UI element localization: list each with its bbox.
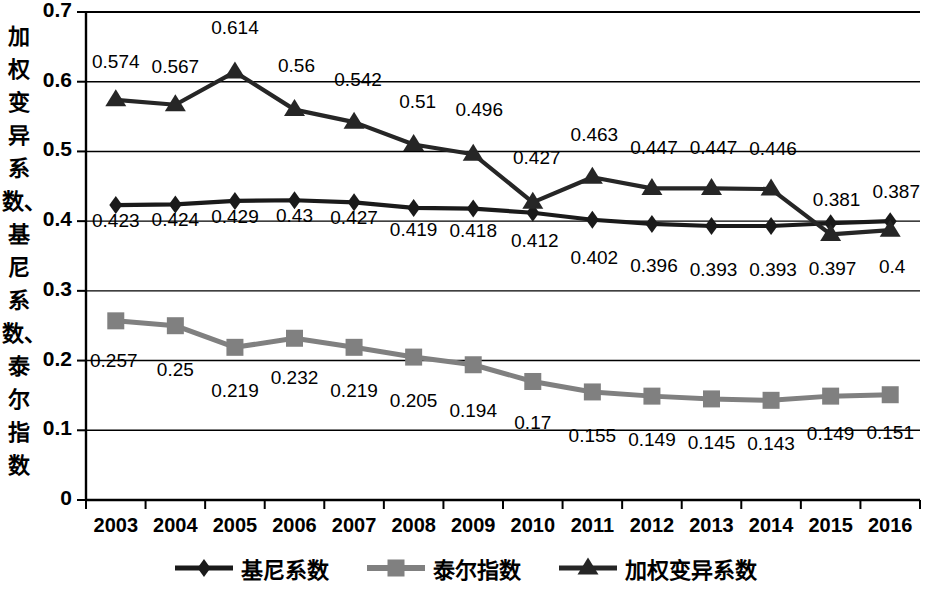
x-tick-label: 2016 [860,514,920,537]
x-tick-label: 2005 [205,514,265,537]
marker-square [465,356,482,373]
plot-area [0,0,930,595]
data-label: 0.151 [866,422,914,444]
x-tick-label: 2011 [562,514,622,537]
marker-triangle [582,167,603,184]
legend-marker-square-icon [365,555,427,581]
x-tick-label: 2013 [682,514,742,537]
data-label: 0.194 [449,400,497,422]
data-label: 0.542 [334,69,382,91]
data-label: 0.423 [92,210,140,232]
data-label: 0.393 [690,259,738,281]
data-label: 0.17 [514,412,551,434]
data-label: 0.219 [330,380,378,402]
marker-square [346,339,363,356]
marker-square [584,383,601,400]
data-label: 0.387 [872,181,920,203]
chart-container: 加权变异系数、基尼系数、泰尔指数 00.10.20.30.40.50.60.7 … [0,0,930,595]
data-label: 0.402 [571,247,619,269]
data-label: 0.25 [157,359,194,381]
legend-marker [198,559,211,577]
marker-triangle [284,99,305,116]
x-tick-label: 2014 [741,514,801,537]
data-label: 0.419 [390,219,438,241]
legend-label: 泰尔指数 [433,552,521,584]
data-label: 0.219 [211,380,259,402]
marker-square [763,392,780,409]
x-tick-label: 2003 [86,514,146,537]
data-label: 0.232 [271,367,319,389]
x-tick-label: 2010 [503,514,563,537]
data-label: 0.446 [749,138,797,160]
data-label: 0.397 [809,258,857,280]
data-label: 0.424 [152,209,200,231]
data-label: 0.574 [92,51,140,73]
legend-marker-diamond-icon [173,555,235,581]
data-label: 0.43 [276,205,313,227]
data-label: 0.496 [455,99,503,121]
legend-item-1[interactable]: 基尼系数 [173,552,329,584]
data-label: 0.145 [688,432,736,454]
legend-label: 加权变异系数 [625,552,757,584]
data-label: 0.427 [513,147,561,169]
marker-triangle [224,61,245,78]
data-label: 0.567 [152,56,200,78]
legend-marker-triangle-icon [557,555,619,581]
data-label: 0.418 [449,220,497,242]
data-label: 0.257 [90,350,138,372]
x-tick-label: 2004 [145,514,205,537]
marker-square [167,317,184,334]
marker-square [524,373,541,390]
x-tick-label: 2008 [384,514,444,537]
marker-diamond [198,559,211,577]
data-label: 0.56 [278,55,315,77]
x-tick-label: 2006 [265,514,325,537]
x-tick-label: 2007 [324,514,384,537]
marker-square [107,312,124,329]
data-label: 0.396 [630,255,678,277]
legend-item-2[interactable]: 泰尔指数 [365,552,521,584]
x-tick-label: 2015 [801,514,861,537]
legend-label: 基尼系数 [241,552,329,584]
marker-square [226,339,243,356]
marker-square [882,386,899,403]
marker-diamond [705,217,718,235]
x-tick-label: 2012 [622,514,682,537]
marker-square [388,560,405,577]
data-label: 0.205 [390,390,438,412]
data-label: 0.412 [511,230,559,252]
data-label: 0.614 [211,17,259,39]
legend-item-3[interactable]: 加权变异系数 [557,552,757,584]
marker-diamond [765,217,778,235]
marker-diamond [467,200,480,218]
marker-diamond [586,211,599,229]
marker-triangle [105,89,126,106]
legend-marker [388,560,405,577]
data-label: 0.149 [807,423,855,445]
data-label: 0.155 [569,425,617,447]
data-label: 0.429 [211,206,259,228]
data-label: 0.463 [571,124,619,146]
marker-square [405,349,422,366]
data-label: 0.393 [749,259,797,281]
x-tick-label: 2009 [443,514,503,537]
marker-square [703,390,720,407]
data-label: 0.149 [628,429,676,451]
data-label: 0.51 [399,91,436,113]
data-label: 0.427 [330,207,378,229]
marker-square [643,388,660,405]
marker-square [822,388,839,405]
data-label: 0.4 [879,256,905,278]
data-label: 0.381 [813,189,861,211]
data-label: 0.447 [690,137,738,159]
data-label: 0.143 [747,433,795,455]
chart-legend: 基尼系数泰尔指数加权变异系数 [0,552,930,584]
marker-diamond [407,199,420,217]
marker-diamond [645,215,658,233]
marker-square [286,330,303,347]
data-label: 0.447 [630,137,678,159]
